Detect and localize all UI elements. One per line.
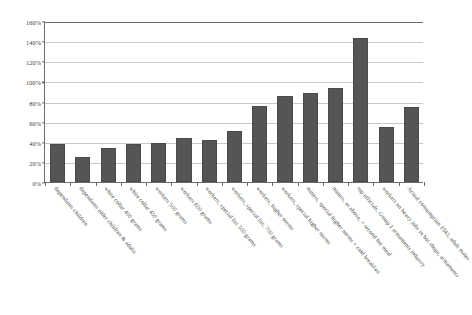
bar (353, 38, 368, 182)
x-tick-mark (298, 182, 299, 186)
bar (227, 131, 242, 182)
x-tick-mark (424, 182, 425, 186)
y-tick-label: 100% (26, 79, 41, 86)
bar (303, 93, 318, 182)
x-tick-mark (247, 182, 248, 186)
x-tick-mark (146, 182, 147, 186)
x-axis-label: workers, special higher norms (280, 186, 332, 246)
bar (379, 127, 394, 182)
x-tick-mark (272, 182, 273, 186)
bar (277, 96, 292, 182)
x-axis-label: workers, special list, 700 grams (229, 186, 284, 249)
bar (101, 148, 116, 182)
x-tick-mark (70, 182, 71, 186)
y-tick-label: 60% (29, 119, 41, 126)
x-tick-mark (399, 182, 400, 186)
y-tick-label: 160% (26, 19, 41, 26)
bars-layer (45, 22, 423, 182)
y-tick-label: 40% (29, 139, 41, 146)
plot-area: 0%20%40%60%80%100%120%140%160% (44, 22, 423, 183)
x-tick-mark (323, 182, 324, 186)
bar (50, 144, 65, 182)
bar (252, 106, 267, 182)
bar (202, 140, 217, 182)
x-axis-label: workers, special list 500 grams (204, 186, 258, 248)
y-tick-label: 0% (32, 180, 41, 187)
x-axis-labels: dependants childrendependants older chil… (44, 186, 437, 315)
x-tick-mark (171, 182, 172, 186)
x-tick-mark (348, 182, 349, 186)
y-tick-label: 80% (29, 99, 41, 106)
x-tick-mark (373, 182, 374, 186)
x-tick-mark (222, 182, 223, 186)
bar (404, 107, 419, 182)
bar (151, 143, 166, 182)
bar (75, 157, 90, 182)
bar (126, 144, 141, 182)
bar (176, 138, 191, 182)
x-tick-mark (121, 182, 122, 186)
y-tick-label: 140% (26, 39, 41, 46)
x-tick-mark (197, 182, 198, 186)
x-tick-mark (96, 182, 97, 186)
y-tick-label: 120% (26, 59, 41, 66)
x-tick-mark (45, 182, 46, 186)
y-tick-label: 20% (29, 159, 41, 166)
bar (328, 88, 343, 182)
